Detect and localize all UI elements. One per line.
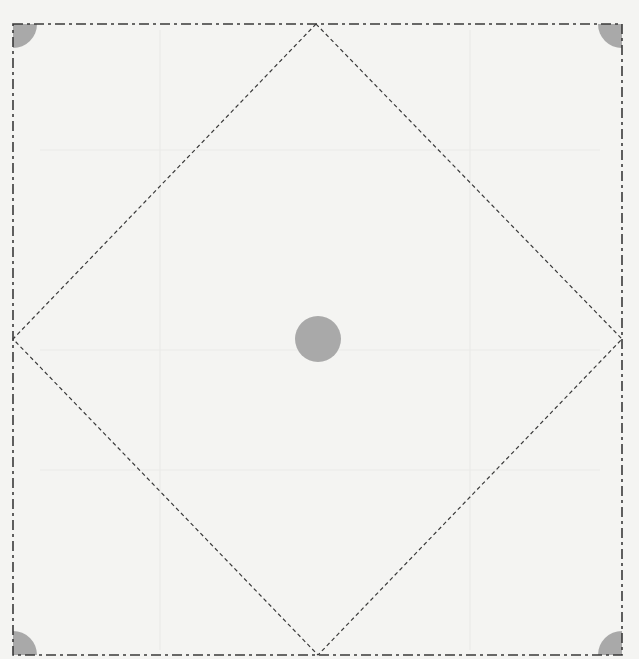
corner-bottom-left: [13, 631, 37, 655]
corner-bottom-right: [598, 631, 622, 655]
corner-top-left: [13, 24, 37, 48]
corner-top-right: [598, 24, 622, 48]
center-circle: [295, 316, 341, 362]
diagram-canvas: [0, 0, 639, 659]
